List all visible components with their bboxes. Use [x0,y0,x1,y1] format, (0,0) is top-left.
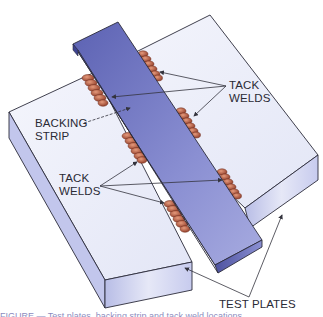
label-line: TACK [59,172,100,185]
label-test-plates: TEST PLATES [219,298,296,311]
label-tack-welds-left: TACK WELDS [59,172,100,198]
label-line: STRIP [35,130,87,143]
figure-caption: FIGURE — Test plates, backing strip and … [0,311,323,317]
label-tack-welds-top: TACK WELDS [229,79,270,105]
welding-diagram: TACK WELDS BACKING STRIP TACK WELDS TEST… [0,0,323,317]
label-line: BACKING [35,117,87,130]
diagram-illustration [0,0,323,317]
label-line: WELDS [229,92,270,105]
label-line: TACK [229,79,270,92]
label-line: WELDS [59,185,100,198]
label-backing-strip: BACKING STRIP [35,117,87,143]
